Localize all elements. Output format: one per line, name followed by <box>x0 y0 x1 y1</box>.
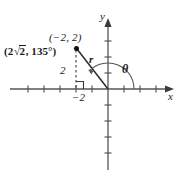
height-label: 2 <box>60 65 66 76</box>
point-marker <box>74 46 79 51</box>
x-axis-group <box>10 85 174 92</box>
radius-label: r <box>89 54 93 65</box>
point-polar-label: (2√2, 135°) <box>4 45 56 57</box>
y-axis-label: y <box>100 11 105 22</box>
polar-coordinate-diagram: y x (−2, 2) (2√2, 135°) 2 −2 r θ <box>0 0 182 180</box>
y-axis-group <box>104 18 111 170</box>
point-rectangular-label: (−2, 2) <box>49 32 82 43</box>
y-axis-arrowhead <box>104 18 111 27</box>
polar-label-prefix: (2 <box>4 45 13 57</box>
diagram-canvas <box>0 0 182 180</box>
right-angle-marker <box>76 82 84 90</box>
radical-radicand: 2 <box>19 45 26 57</box>
polar-label-suffix: , 135°) <box>26 45 57 57</box>
x-intercept-label: −2 <box>72 92 85 103</box>
x-axis-label: x <box>168 91 173 102</box>
radical-group: √2 <box>13 45 25 57</box>
theta-label: θ <box>122 63 128 75</box>
